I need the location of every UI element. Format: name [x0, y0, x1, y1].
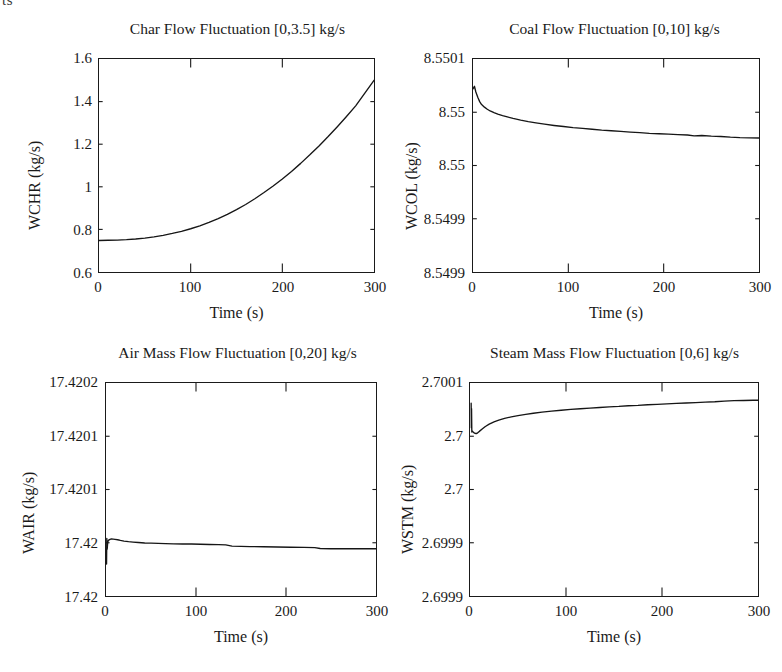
data-curve-wcol [473, 86, 759, 138]
data-curve-wchr [99, 80, 374, 240]
y-tick-label: 8.55 [439, 105, 465, 120]
chart-panel-air-mass-flow: Air Mass Flow Fluctuation [0,20] kg/s 17… [0, 340, 391, 668]
y-tick-label: 1 [85, 180, 93, 195]
y-tick-label: 1.4 [73, 94, 92, 109]
y-axis-ticks [473, 112, 759, 219]
x-axis-title: Time (s) [469, 628, 759, 646]
y-tick-label: 1.6 [73, 51, 92, 66]
x-tick-label: 300 [364, 280, 387, 295]
x-tick-label: 200 [275, 604, 298, 619]
y-tick-label: 2.7001 [422, 375, 463, 390]
y-tick-label: 8.5501 [424, 51, 465, 66]
y-tick-label: 2.7 [444, 429, 463, 444]
y-tick-label: 17.4202 [49, 375, 98, 390]
y-tick-label: 8.5499 [424, 266, 465, 281]
x-tick-label: 200 [651, 604, 674, 619]
data-curve-wstm [471, 400, 758, 433]
chart-panel-steam-mass-flow: Steam Mass Flow Fluctuation [0,6] kg/s 2… [391, 340, 782, 668]
y-tick-label: 2.7 [444, 482, 463, 497]
x-tick-label: 300 [749, 280, 772, 295]
y-tick-label: 17.42 [64, 536, 98, 551]
plot-canvas [473, 59, 759, 272]
y-tick-label: 8.55 [439, 158, 465, 173]
plot-area [472, 58, 760, 273]
y-tick-label: 1.2 [73, 137, 92, 152]
y-tick-label: 17.4201 [49, 482, 98, 497]
x-tick-label: 100 [555, 604, 578, 619]
y-tick-label: 2.6999 [422, 536, 463, 551]
x-tick-label: 200 [272, 280, 295, 295]
y-tick-label: 2.6999 [422, 590, 463, 605]
x-axis-ticks [196, 383, 286, 596]
x-axis-title: Time (s) [472, 304, 760, 322]
x-tick-label: 0 [94, 280, 102, 295]
x-axis-ticks [566, 383, 662, 596]
y-axis-ticks [106, 436, 376, 543]
plot-canvas [106, 383, 376, 596]
y-axis-tick-labels: 0.6 0.8 1 1.2 1.4 1.6 [10, 58, 92, 273]
plot-area [469, 382, 759, 597]
x-tick-label: 100 [557, 280, 580, 295]
y-axis-title: WCOL (kg/s) [403, 142, 421, 230]
x-tick-label: 300 [748, 604, 771, 619]
plot-canvas [470, 383, 758, 596]
x-tick-label: 100 [179, 280, 202, 295]
x-axis-ticks [191, 59, 283, 272]
y-tick-label: 17.4201 [49, 429, 98, 444]
plot-canvas [99, 59, 374, 272]
chart-title: Air Mass Flow Fluctuation [0,20] kg/s [0, 344, 433, 362]
y-axis-tick-labels: 17.42 17.42 17.4201 17.4201 17.4202 [2, 382, 98, 597]
y-tick-label: 0.8 [73, 223, 92, 238]
y-axis-title: WCHR (kg/s) [26, 141, 44, 230]
x-tick-label: 200 [653, 280, 676, 295]
x-tick-label: 0 [101, 604, 109, 619]
x-tick-label: 100 [185, 604, 208, 619]
chart-title: Char Flow Fluctuation [0,3.5] kg/s [0, 20, 433, 38]
x-tick-label: 0 [468, 280, 476, 295]
x-axis-title: Time (s) [98, 304, 375, 322]
y-axis-title: WSTM (kg/s) [399, 465, 417, 554]
y-tick-label: 0.6 [73, 266, 92, 281]
chart-panel-coal-flow: Coal Flow Fluctuation [0,10] kg/s 8.5499… [391, 8, 782, 336]
chart-title: Coal Flow Fluctuation [0,10] kg/s [391, 20, 782, 38]
x-axis-ticks [568, 59, 663, 272]
y-axis-title: WAIR (kg/s) [20, 472, 38, 554]
x-axis-title: Time (s) [105, 628, 377, 646]
x-tick-label: 300 [366, 604, 389, 619]
chart-panel-char-flow: Char Flow Fluctuation [0,3.5] kg/s 0.6 0… [0, 8, 391, 336]
y-tick-label: 17.42 [64, 590, 98, 605]
y-tick-label: 8.5499 [424, 212, 465, 227]
y-axis-tick-labels: 8.5499 8.5499 8.55 8.55 8.5501 [385, 58, 465, 273]
y-axis-ticks [470, 436, 758, 543]
x-tick-label: 0 [465, 604, 473, 619]
data-curve-wair [107, 538, 376, 564]
chart-title: Steam Mass Flow Fluctuation [0,6] kg/s [391, 344, 782, 362]
plot-area [98, 58, 375, 273]
plot-area [105, 382, 377, 597]
y-axis-tick-labels: 2.6999 2.6999 2.7 2.7 2.7001 [383, 382, 463, 597]
figure-grid: Char Flow Fluctuation [0,3.5] kg/s 0.6 0… [0, 0, 782, 672]
